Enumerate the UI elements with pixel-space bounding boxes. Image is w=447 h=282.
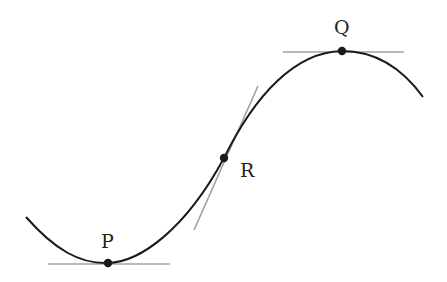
point-q-marker — [338, 47, 346, 55]
label-p: P — [101, 230, 114, 252]
label-r: R — [240, 159, 255, 181]
point-r-marker — [220, 154, 228, 162]
label-q: Q — [334, 16, 350, 38]
point-p-marker — [104, 259, 112, 267]
diagram-canvas: P R Q — [0, 0, 447, 282]
s-curve-diagram: P R Q — [0, 0, 447, 282]
